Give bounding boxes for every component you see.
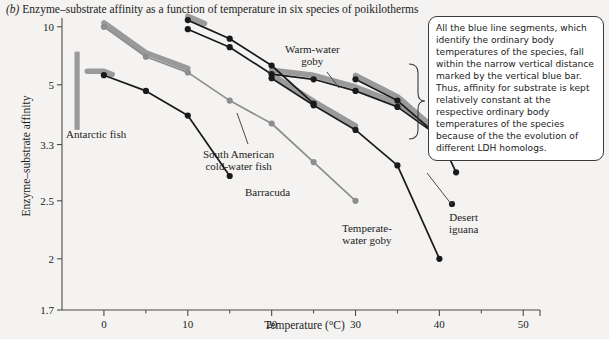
series-label-temperate-water-goby: Temperate- water goby: [342, 222, 392, 247]
series-label-antarctic-fish: Antarctic fish: [66, 128, 126, 140]
y-tick-label: 10: [14, 21, 54, 33]
series-label-desert-iguana: Desert iguana: [449, 211, 478, 236]
x-axis-label: Temperature (°C): [0, 319, 609, 331]
highlight-segments-group: [87, 16, 439, 133]
annotation-callout: All the blue line segments, which identi…: [428, 16, 604, 161]
series-label-barracuda: Barracuda: [245, 186, 290, 198]
series-label-warm-water-goby: Warm-water goby: [285, 43, 340, 68]
series-label-south-american-cold-water-fish: South American cold-water fish: [203, 148, 274, 173]
y-tick-label: 1.7: [14, 304, 54, 316]
annotation-brace: [409, 64, 425, 139]
y-axis-label: Enzyme–substrate affinity: [20, 46, 32, 266]
